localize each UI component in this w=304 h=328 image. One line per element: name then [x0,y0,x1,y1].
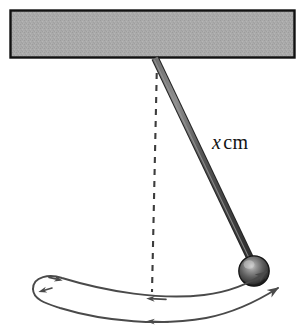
bob-specular-highlight [244,260,255,268]
pendulum-rod [154,58,251,261]
rod-highlight [154,60,250,261]
support-bar [11,11,295,58]
length-unit: cm [223,131,248,153]
length-variable: x [212,131,223,153]
vertical-reference-line [152,61,157,292]
swing-arc-upper [33,272,266,296]
pendulum-diagram-canvas [0,0,304,328]
swing-arc-lower [33,288,278,322]
swing-arrow-mid-upper [150,299,166,300]
swing-arrow-mid-lower [150,321,168,322]
rod-shaft [155,58,252,261]
pendulum-bob [239,256,269,286]
support-bar-body [11,11,295,58]
rod-length-label: xcm [212,132,249,152]
swing-arrow-hook-lower [42,288,52,291]
pendulum-figure: xcm [0,0,304,328]
